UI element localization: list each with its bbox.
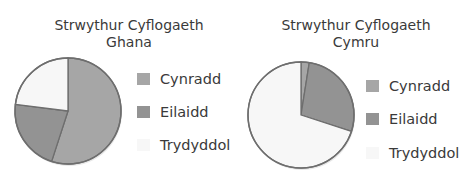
legend-item-cynradd: Cynradd (366, 79, 450, 93)
chart-title-line-1: Strwythur Cyflogaeth (280, 17, 432, 34)
legend-label: Eilaidd (389, 112, 438, 126)
legend-swatch-cynradd (366, 80, 379, 92)
chart-cymru: Strwythur Cyflogaeth Cymru Cynradd Eilai… (0, 0, 465, 183)
legend-item-eilaidd: Eilaidd (366, 112, 438, 126)
legend-label: Trydyddol (389, 146, 459, 160)
legend-label: Cynradd (389, 79, 450, 93)
legend-swatch-eilaidd (366, 113, 379, 125)
chart-title-cymru: Strwythur Cyflogaeth Cymru (280, 17, 432, 51)
legend-swatch-trydyddol (366, 147, 379, 159)
chart-title-line-2: Cymru (280, 34, 432, 51)
pie-chart-cymru (243, 56, 359, 174)
legend-item-trydyddol: Trydyddol (366, 146, 459, 160)
